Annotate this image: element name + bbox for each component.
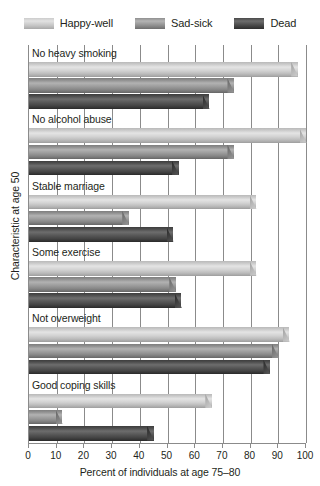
bar-row — [29, 128, 306, 143]
x-tick-label: 80 — [244, 450, 255, 462]
x-tick — [305, 443, 306, 448]
category-label: Some exercise — [32, 246, 100, 258]
bar-body — [29, 145, 234, 160]
bar-row — [29, 293, 306, 308]
x-tick-label: 90 — [272, 450, 283, 462]
x-tick — [250, 443, 251, 448]
x-tick — [277, 443, 278, 448]
x-tick — [139, 443, 140, 448]
x-tick-label: 0 — [25, 450, 31, 462]
bar-happy[interactable] — [29, 394, 212, 409]
x-tick-label: 60 — [189, 450, 200, 462]
bar-dead[interactable] — [29, 360, 270, 375]
bar-row — [29, 62, 306, 77]
bar-body — [29, 327, 289, 342]
bar-group: Stable marriage — [29, 178, 306, 244]
legend-entry: Sad-sick — [135, 18, 212, 29]
bar-happy[interactable] — [29, 327, 289, 342]
x-tick-label: 100 — [297, 450, 314, 462]
category-label: Stable marriage — [32, 180, 105, 192]
bar-dead[interactable] — [29, 94, 209, 109]
bar-row — [29, 78, 306, 93]
legend-swatch-happy — [24, 18, 54, 29]
bar-row — [29, 261, 306, 276]
bar-body — [29, 293, 181, 308]
bar-sad[interactable] — [29, 410, 62, 425]
bar-body — [29, 78, 234, 93]
bar-row — [29, 410, 306, 425]
legend-label: Sad-sick — [171, 18, 212, 29]
category-label: Good coping skills — [32, 379, 115, 391]
x-tick-label: 70 — [216, 450, 227, 462]
x-tick — [194, 443, 195, 448]
bar-group: No heavy smoking — [29, 45, 306, 111]
x-axis-title: Percent of individuals at age 75–80 — [0, 466, 320, 479]
x-tick — [111, 443, 112, 448]
bar-row — [29, 195, 306, 210]
legend-label: Dead — [270, 18, 296, 29]
plot-area: No heavy smokingNo alcohol abuseStable m… — [28, 45, 307, 443]
bar-dead[interactable] — [29, 161, 179, 176]
bar-happy[interactable] — [29, 195, 256, 210]
bar-sad[interactable] — [29, 145, 234, 160]
bar-group: Some exercise — [29, 244, 306, 310]
bar-body — [29, 277, 176, 292]
bar-body — [29, 227, 173, 242]
bar-group: No alcohol abuse — [29, 111, 306, 177]
bar-dead[interactable] — [29, 426, 154, 441]
bar-body — [29, 394, 212, 409]
bar-sad[interactable] — [29, 344, 278, 359]
bar-row — [29, 344, 306, 359]
legend-label: Happy-well — [60, 18, 113, 29]
bar-row — [29, 360, 306, 375]
x-axis-tick-labels: 0102030405060708090100 — [0, 450, 320, 464]
bar-groups: No heavy smokingNo alcohol abuseStable m… — [29, 45, 306, 443]
bar-body — [29, 128, 306, 143]
bar-body — [29, 161, 179, 176]
bar-body — [29, 344, 278, 359]
bar-dead[interactable] — [29, 227, 173, 242]
chart-legend: Happy-wellSad-sickDead — [0, 10, 320, 36]
x-tick — [83, 443, 84, 448]
bar-group: Not overweight — [29, 310, 306, 376]
bar-body — [29, 426, 154, 441]
x-tick-label: 40 — [133, 450, 144, 462]
bar-row — [29, 394, 306, 409]
bar-body — [29, 94, 209, 109]
bar-row — [29, 211, 306, 226]
bar-happy[interactable] — [29, 128, 306, 143]
y-axis-title: Characteristic at age 50 — [9, 131, 21, 321]
category-label: No heavy smoking — [32, 47, 117, 59]
bar-row — [29, 277, 306, 292]
x-tick — [222, 443, 223, 448]
bar-row — [29, 426, 306, 441]
legend-entry: Happy-well — [24, 18, 113, 29]
bar-body — [29, 360, 270, 375]
bar-body — [29, 211, 129, 226]
bar-row — [29, 94, 306, 109]
x-tick-label: 10 — [50, 450, 61, 462]
legend-swatch-dead — [234, 18, 264, 29]
bar-sad[interactable] — [29, 277, 176, 292]
x-tick — [28, 443, 29, 448]
x-axis-ticks — [28, 443, 306, 448]
legend-swatch-sad — [135, 18, 165, 29]
bar-happy[interactable] — [29, 261, 256, 276]
bar-row — [29, 327, 306, 342]
legend-entry: Dead — [234, 18, 296, 29]
x-tick — [56, 443, 57, 448]
category-label: Not overweight — [32, 312, 101, 324]
bar-row — [29, 161, 306, 176]
bar-sad[interactable] — [29, 211, 129, 226]
bar-row — [29, 145, 306, 160]
bar-dead[interactable] — [29, 293, 181, 308]
bar-group: Good coping skills — [29, 377, 306, 443]
bar-happy[interactable] — [29, 62, 298, 77]
x-tick-label: 30 — [106, 450, 117, 462]
x-tick — [167, 443, 168, 448]
category-label: No alcohol abuse — [32, 113, 112, 125]
x-tick-label: 20 — [78, 450, 89, 462]
bar-sad[interactable] — [29, 78, 234, 93]
bar-body — [29, 261, 256, 276]
bar-body — [29, 195, 256, 210]
